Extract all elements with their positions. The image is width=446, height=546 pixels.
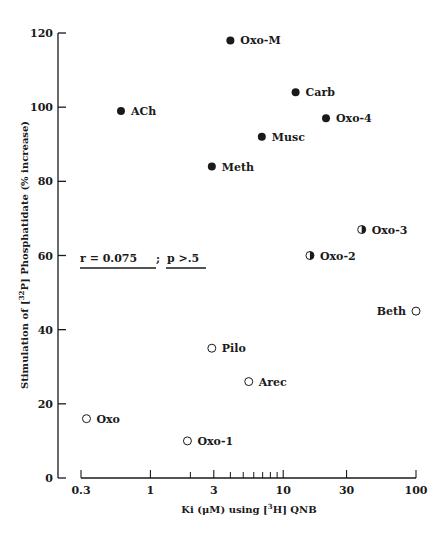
x-axis-ticks: 0.3131030100 [71, 470, 427, 497]
open-circle-marker [245, 378, 253, 386]
data-point-oxo-m: Oxo-M [226, 34, 280, 47]
point-label: Meth [222, 161, 254, 174]
point-label: Oxo-2 [320, 250, 356, 263]
x-tick-label: 100 [405, 484, 428, 497]
annotation-p-value: p >.5 [167, 252, 199, 265]
scatter-chart: 020406080100120 0.3131030100 Oxo-MCarbAC… [0, 0, 446, 546]
data-point-meth: Meth [208, 161, 254, 174]
data-point-oxo: Oxo [82, 413, 119, 426]
open-circle-marker [82, 415, 90, 423]
x-tick-label: 0.3 [71, 484, 90, 497]
point-label: Beth [377, 305, 406, 318]
data-point-oxo-1: Oxo-1 [183, 435, 233, 448]
y-tick-label: 100 [30, 101, 53, 114]
data-point-carb: Carb [292, 86, 336, 99]
point-label: ACh [130, 105, 156, 118]
point-label: Arec [258, 376, 287, 389]
point-label: Musc [272, 131, 305, 144]
data-point-ach: ACh [117, 105, 156, 118]
x-tick-label: 1 [147, 484, 155, 497]
point-label: Pilo [222, 342, 246, 355]
annotation-separator: ; [156, 252, 160, 265]
filled-circle-marker [292, 88, 300, 96]
y-tick-label: 80 [38, 175, 54, 188]
y-tick-label: 60 [38, 250, 54, 263]
data-point-oxo-2: Oxo-2 [306, 250, 356, 263]
data-point-musc: Musc [258, 131, 305, 144]
y-tick-label: 40 [38, 324, 54, 337]
y-tick-label: 20 [38, 398, 54, 411]
point-label: Oxo-3 [372, 224, 408, 237]
open-circle-marker [183, 437, 191, 445]
data-point-arec: Arec [245, 376, 287, 389]
annotation-r-value: r = 0.075 [80, 252, 137, 265]
x-axis-label: Ki (μM) using [3H] QNB [181, 502, 316, 515]
data-point-oxo-3: Oxo-3 [358, 224, 408, 237]
point-label: Oxo-M [240, 34, 280, 47]
filled-circle-marker [258, 133, 266, 141]
data-point-oxo-4: Oxo-4 [322, 112, 372, 125]
point-label: Oxo-1 [197, 435, 233, 448]
filled-circle-marker [226, 36, 234, 44]
y-tick-label: 120 [30, 27, 53, 40]
y-axis-ticks: 020406080100120 [30, 27, 66, 485]
filled-circle-marker [117, 107, 125, 115]
filled-circle-marker [208, 163, 216, 171]
x-tick-label: 10 [276, 484, 292, 497]
open-circle-marker [208, 344, 216, 352]
correlation-annotation: r = 0.075 ; p >.5 [80, 252, 206, 268]
y-tick-label: 0 [45, 472, 53, 485]
point-label: Oxo [96, 413, 119, 426]
x-tick-label: 3 [210, 484, 218, 497]
x-tick-label: 30 [339, 484, 355, 497]
point-label: Carb [306, 86, 336, 99]
data-points: Oxo-MCarbAChOxo-4MuscMethOxo-3Oxo-2BethP… [82, 34, 420, 448]
data-point-beth: Beth [377, 305, 420, 318]
filled-circle-marker [322, 114, 330, 122]
data-point-pilo: Pilo [208, 342, 246, 355]
open-circle-marker [412, 307, 420, 315]
point-label: Oxo-4 [336, 112, 372, 125]
y-axis-label: Stimulation of [32P] Phosphatidate (% in… [17, 121, 30, 389]
